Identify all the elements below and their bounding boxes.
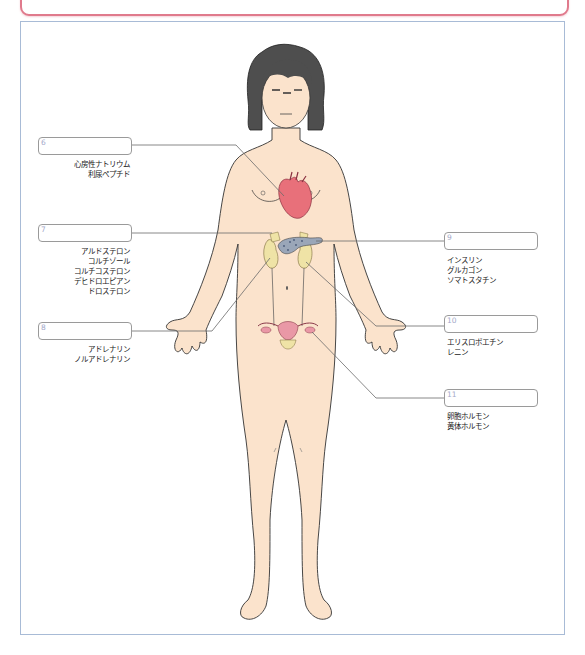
answer-box-10[interactable]: 10 [444, 315, 538, 333]
hormone-list-8: アドレナリン ノルアドレナリン [10, 345, 130, 365]
hormone-list-7: アルドステロン コルチゾール コルチコステロン デヒドロエピアン ドロステロン [10, 247, 130, 297]
hormone-name: エリスロポエチン [447, 338, 567, 348]
hormone-name: ノルアドレナリン [10, 355, 130, 365]
answer-box-8[interactable]: 8 [38, 322, 132, 340]
hormone-name: ソマトスタチン [447, 276, 567, 286]
hormone-name: ドロステロン [10, 287, 130, 297]
hormone-name: アルドステロン [10, 247, 130, 257]
hormone-name: アドレナリン [10, 345, 130, 355]
hormone-name: デヒドロエピアン [10, 277, 130, 287]
ovary-right [305, 327, 315, 333]
label-number: 8 [41, 323, 46, 332]
hormone-name: インスリン [447, 256, 567, 266]
label-number: 6 [41, 138, 46, 147]
hormone-list-10: エリスロポエチン レニン [447, 338, 567, 358]
hormone-name: 心房性ナトリウム [10, 160, 130, 170]
hormone-name: 利尿ペプチド [10, 170, 130, 180]
hormone-name: グルカゴン [447, 266, 567, 276]
hormone-name: コルチゾール [10, 257, 130, 267]
ovary-left [261, 327, 271, 333]
answer-box-7[interactable]: 7 [38, 224, 132, 242]
label-number: 9 [447, 233, 452, 242]
answer-box-6[interactable]: 6 [38, 137, 132, 155]
label-number: 11 [447, 390, 457, 399]
hormone-list-6: 心房性ナトリウム 利尿ペプチド [10, 160, 130, 180]
hormone-name: 卵胞ホルモン [447, 412, 567, 422]
hormone-list-9: インスリン グルカゴン ソマトスタチン [447, 256, 567, 286]
answer-box-11[interactable]: 11 [444, 389, 538, 407]
adrenal-left [270, 232, 280, 242]
hormone-name: レニン [447, 348, 567, 358]
hormone-name: 黄体ホルモン [447, 422, 567, 432]
hormone-name: コルチコステロン [10, 267, 130, 277]
answer-box-9[interactable]: 9 [444, 232, 538, 250]
label-number: 10 [447, 316, 457, 325]
hormone-list-11: 卵胞ホルモン 黄体ホルモン [447, 412, 567, 432]
label-number: 7 [41, 225, 46, 234]
